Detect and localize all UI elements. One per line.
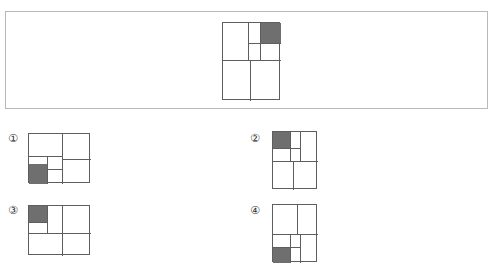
shaded-cell: [29, 164, 47, 184]
grid-line-horizontal-sub: [47, 169, 62, 170]
shaded-cell: [273, 132, 290, 148]
shaded-cell: [29, 206, 47, 222]
grid-line-horizontal-left: [29, 233, 62, 234]
grid-line-vertical-lower: [250, 60, 251, 101]
grid-line-vertical-upper: [297, 205, 298, 234]
grid-line-vertical-upper-right: [300, 132, 301, 161]
grid-line-horizontal-sub: [29, 222, 47, 223]
grid-line-vertical-main: [62, 206, 63, 256]
grid-line-horizontal-lower-left: [273, 247, 300, 248]
grid-line-vertical-upper-right: [260, 23, 261, 60]
grid-line-vertical-lower-right: [300, 234, 301, 263]
grid-line-horizontal-mid: [273, 234, 318, 235]
option-1-label: ①: [8, 133, 18, 144]
grid-line-horizontal-mid: [273, 161, 318, 162]
shaded-cell: [260, 23, 281, 43]
option-3-label: ③: [8, 205, 18, 216]
grid-line-vertical-lower: [293, 161, 294, 190]
question-figure: [222, 22, 280, 100]
option-2-figure[interactable]: [272, 131, 317, 189]
option-4-figure[interactable]: [272, 204, 317, 262]
grid-line-horizontal-upper-left: [273, 148, 300, 149]
option-1-figure[interactable]: [28, 133, 90, 183]
grid-line-vertical-upper-left: [47, 206, 48, 233]
grid-line-vertical-upper-left: [290, 132, 291, 161]
grid-line-horizontal-right: [62, 159, 91, 160]
grid-line-vertical-lower-left: [290, 234, 291, 263]
grid-line-horizontal-right: [62, 233, 91, 234]
option-4-label: ④: [250, 205, 260, 216]
shaded-cell: [273, 247, 290, 263]
grid-line-horizontal-left: [29, 156, 62, 157]
option-3-figure[interactable]: [28, 205, 90, 255]
grid-line-horizontal-mid: [223, 60, 281, 61]
option-2-label: ②: [250, 133, 260, 144]
grid-line-vertical-upper-left: [248, 23, 249, 60]
grid-line-horizontal-upper-right: [248, 43, 281, 44]
